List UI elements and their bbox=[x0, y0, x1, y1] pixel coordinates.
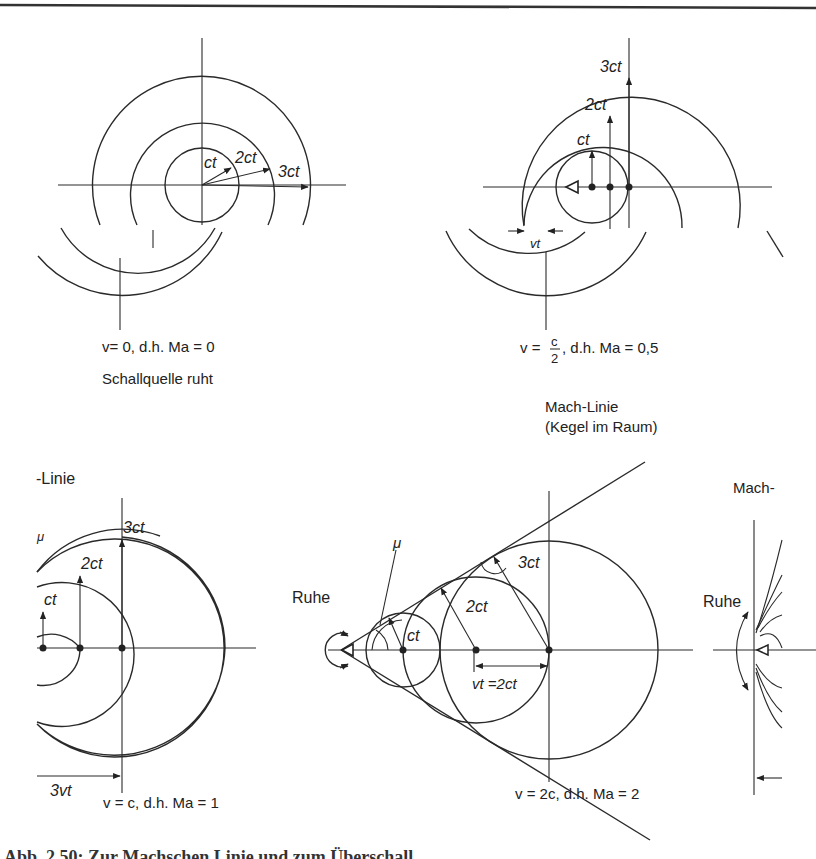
label-3vt: 3vt bbox=[50, 782, 72, 799]
panel-ma-1: -Linie μ ct 2ct 3ct 3vt v = c, d.h. Ma =… bbox=[36, 470, 256, 811]
panel-ma-0: ct 2ct 3ct v= 0, d.h. Ma = 0 Schallquell… bbox=[38, 38, 346, 387]
note-source-at-rest: Schallquelle ruht bbox=[102, 370, 214, 387]
label-3ct: 3ct bbox=[278, 163, 300, 180]
label-mach-line: Mach-Linie bbox=[545, 398, 618, 415]
condition-ma-0-5-suffix: , d.h. Ma = 0,5 bbox=[562, 339, 658, 356]
label-ct: ct bbox=[44, 591, 57, 608]
figure-caption: Abb. 2.50: Zur Machschen Linie und zum Ü… bbox=[0, 846, 816, 859]
condition-ma-1: v = c, d.h. Ma = 1 bbox=[103, 794, 219, 811]
figure-caption-text: Abb. 2.50: Zur Machschen Linie und zum Ü… bbox=[0, 846, 816, 859]
label-rest: Ruhe bbox=[703, 593, 741, 610]
label-ct: ct bbox=[407, 627, 420, 644]
label-2ct: 2ct bbox=[80, 555, 103, 572]
label-3ct: 3ct bbox=[123, 519, 145, 536]
label-2ct: 2ct bbox=[465, 598, 488, 615]
label-mu: μ bbox=[36, 529, 44, 544]
panel-ma-high: Mach- Ruhe bbox=[703, 479, 816, 795]
label-3ct: 3ct bbox=[518, 554, 540, 571]
label-ct: ct bbox=[577, 131, 590, 148]
label-mach-line-partial: Mach- bbox=[733, 479, 775, 496]
label-3ct: 3ct bbox=[600, 58, 622, 75]
label-ct: ct bbox=[204, 154, 217, 171]
label-vt: vt bbox=[530, 236, 542, 251]
label-rest: Ruhe bbox=[292, 589, 330, 606]
fraction-denominator: 2 bbox=[551, 351, 558, 366]
fraction-numerator: c bbox=[551, 334, 558, 349]
label-mach-line-partial: -Linie bbox=[36, 470, 75, 487]
label-2ct: 2ct bbox=[234, 149, 257, 166]
top-rule bbox=[0, 5, 816, 8]
label-mach-cone: (Kegel im Raum) bbox=[545, 418, 658, 435]
label-mu: μ bbox=[392, 534, 401, 551]
panel-ma-2: Ruhe μ ct 2ct 3ct vt =2ct Mach-Linie (Ke… bbox=[292, 398, 693, 840]
label-2ct: 2ct bbox=[584, 96, 607, 113]
condition-ma-2: v = 2c, d.h. Ma = 2 bbox=[515, 785, 639, 802]
label-vt-2ct: vt =2ct bbox=[472, 675, 517, 692]
mach-diagram-figure: ct 2ct 3ct v= 0, d.h. Ma = 0 Schallquell… bbox=[0, 0, 816, 859]
condition-ma-0-5: v = bbox=[520, 339, 541, 356]
panel-ma-0-5: ct 2ct 3ct vt v = c 2 , d.h. Ma = 0,5 bbox=[446, 38, 783, 366]
condition-ma-0: v= 0, d.h. Ma = 0 bbox=[102, 338, 215, 355]
